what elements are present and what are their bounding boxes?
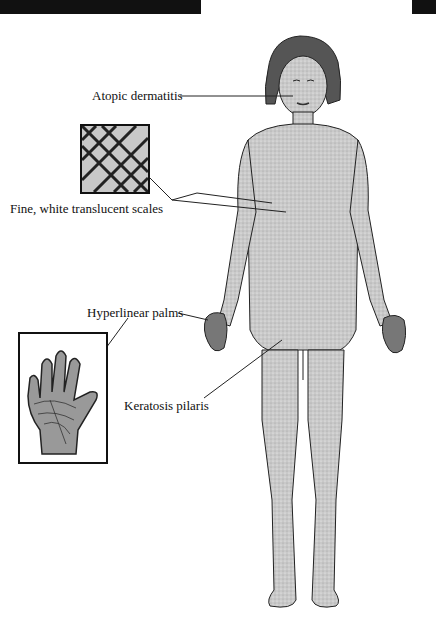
label-atopic-dermatitis: Atopic dermatitis (92, 88, 183, 104)
body-figure (0, 0, 436, 639)
label-hyperlinear-palms: Hyperlinear palms (87, 305, 183, 321)
scale-pattern-icon (82, 126, 148, 192)
label-scales: Fine, white translucent scales (10, 201, 163, 217)
label-keratosis-pilaris: Keratosis pilaris (124, 398, 209, 414)
palm-inset (18, 332, 108, 464)
scales-inset (80, 124, 150, 194)
palm-icon (20, 334, 106, 462)
